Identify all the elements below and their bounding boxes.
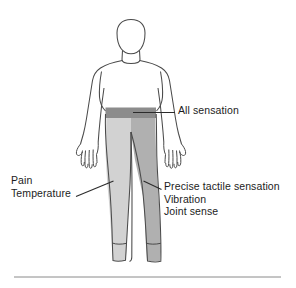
label-temperature: Temperature: [11, 187, 71, 200]
left-hand-outline: [76, 142, 98, 168]
label-precise-tactile-sensation: Precise tactile sensation: [164, 180, 280, 193]
label-all-sensation-line1: All sensation: [178, 104, 239, 117]
label-pain-temperature: Pain Temperature: [11, 174, 71, 199]
right-hand-outline: [164, 142, 186, 168]
figure-panel: All sensation Pain Temperature Precise t…: [0, 0, 296, 288]
label-vibration: Vibration: [164, 193, 280, 206]
label-all-sensation: All sensation: [178, 104, 239, 117]
body-diagram: [0, 0, 296, 288]
torso-sides-outline: [99, 72, 162, 112]
label-joint-sense: Joint sense: [164, 205, 280, 218]
head-outline: [117, 20, 145, 54]
label-dorsal-column-modalities: Precise tactile sensation Vibration Join…: [164, 180, 280, 218]
label-pain: Pain: [11, 174, 71, 187]
